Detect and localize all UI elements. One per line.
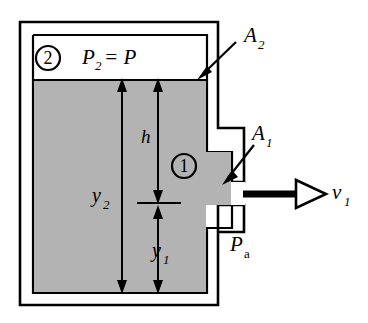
velocity-label: v — [332, 180, 342, 204]
fluid-region — [34, 80, 231, 292]
nozzle-outlet-gap — [231, 182, 245, 205]
height-y1-label: y — [150, 239, 161, 262]
diagram-canvas: 2 1 P 2 = P A 2 A 1 h y 2 y 1 P a v 1 — [0, 0, 368, 323]
area-top-subscript: 2 — [258, 37, 265, 52]
area-nozzle-label: A — [250, 121, 265, 145]
pressure-top-equals: = P — [104, 45, 136, 69]
pressure-ambient-subscript: a — [244, 246, 250, 261]
height-y1-subscript: 1 — [163, 252, 170, 267]
velocity-subscript: 1 — [344, 194, 351, 209]
outflow-velocity-arrowhead-icon — [296, 180, 326, 208]
pressure-top-subscript: 2 — [95, 58, 102, 73]
area-nozzle-subscript: 1 — [266, 135, 273, 150]
pressure-top-label: P — [81, 45, 95, 69]
point2-marker-label: 2 — [44, 48, 53, 68]
area-top-label: A — [242, 23, 257, 47]
fluid-tank-diagram: 2 1 P 2 = P A 2 A 1 h y 2 y 1 P a v 1 — [0, 0, 368, 323]
height-y2-label: y — [90, 184, 101, 207]
height-y2-subscript: 2 — [103, 197, 110, 212]
point1-marker-label: 1 — [180, 156, 189, 176]
height-h-label: h — [141, 126, 151, 147]
pressure-ambient-label: P — [229, 232, 243, 256]
